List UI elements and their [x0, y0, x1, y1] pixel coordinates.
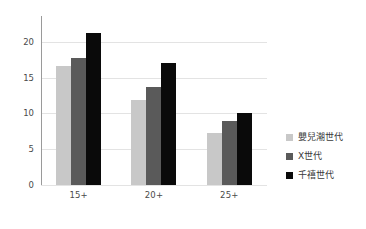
bar-group — [41, 24, 116, 185]
bar[interactable] — [71, 58, 86, 185]
bar-group — [116, 24, 191, 185]
bar-group — [192, 24, 267, 185]
bar[interactable] — [237, 113, 252, 185]
legend-swatch-icon — [286, 153, 293, 160]
legend-item[interactable]: 千禧世代 — [286, 166, 362, 185]
bar-chart: 05101520 15+20+25+ 嬰兒潮世代X世代千禧世代 — [0, 0, 366, 229]
bar[interactable] — [207, 133, 222, 185]
legend-item[interactable]: X世代 — [286, 147, 362, 166]
bar[interactable] — [86, 33, 101, 185]
gridline — [41, 185, 267, 186]
y-tick-label: 10 — [0, 108, 34, 118]
legend: 嬰兒潮世代X世代千禧世代 — [286, 128, 362, 185]
legend-label: 千禧世代 — [298, 171, 334, 180]
y-tick-label: 0 — [0, 180, 34, 190]
bar[interactable] — [56, 66, 71, 185]
bar[interactable] — [131, 100, 146, 185]
legend-label: 嬰兒潮世代 — [298, 133, 343, 142]
y-tick-label: 5 — [0, 144, 34, 154]
legend-swatch-icon — [286, 134, 293, 141]
x-axis-tick-labels: 15+20+25+ — [41, 190, 267, 200]
y-tick-label: 20 — [0, 37, 34, 47]
y-tick-label: 15 — [0, 73, 34, 83]
bar[interactable] — [146, 87, 161, 185]
y-axis-tick-labels: 05101520 — [0, 24, 36, 185]
bar[interactable] — [222, 121, 237, 185]
legend-label: X世代 — [298, 152, 322, 161]
legend-swatch-icon — [286, 172, 293, 179]
bar[interactable] — [161, 63, 176, 185]
x-tick-label: 25+ — [192, 190, 267, 200]
legend-item[interactable]: 嬰兒潮世代 — [286, 128, 362, 147]
x-tick-label: 15+ — [41, 190, 116, 200]
x-tick-label: 20+ — [116, 190, 191, 200]
bar-groups — [41, 24, 267, 185]
